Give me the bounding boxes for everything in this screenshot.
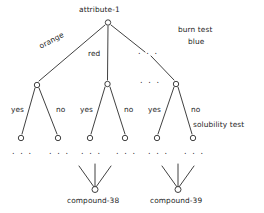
ellipsis-under-leaf-4: . . . <box>116 148 137 156</box>
edge-to-compound-38-left <box>79 166 94 187</box>
ellipsis-under-leaf-5: . . . <box>148 148 169 156</box>
node-leaf-2 <box>55 135 60 140</box>
edge-label-yes-1: yes <box>11 106 24 115</box>
node-leaf-6 <box>190 135 195 140</box>
root-node-label: attribute-1 <box>79 6 120 15</box>
node-leaf-5 <box>154 135 159 140</box>
node-compound-39 <box>175 187 181 193</box>
node-compound-38 <box>92 187 98 193</box>
edge-to-compound-38-right <box>96 166 111 187</box>
node-leaf-3 <box>87 135 92 140</box>
decision-tree-diagram: attribute-1 orange red burn test blue . … <box>0 0 264 213</box>
compound-38-label: compound-38 <box>67 197 119 206</box>
node-root <box>105 20 110 25</box>
attribute-label-burn-test: burn test <box>178 26 212 35</box>
edge-to-compound-39-right <box>179 166 194 187</box>
node-leaf-4 <box>122 135 127 140</box>
ellipsis-under-leaf-3: . . . <box>81 148 102 156</box>
edge-label-red: red <box>88 50 100 59</box>
edge-label-no-2: no <box>124 106 133 115</box>
edge-label-no-1: no <box>56 106 65 115</box>
ellipsis-root-branch: . . . <box>138 48 159 56</box>
node-leaf-1 <box>18 135 23 140</box>
node-level2-red <box>105 81 110 86</box>
ellipsis-under-leaf-6: . . . <box>184 148 205 156</box>
ellipsis-under-leaf-2: . . . <box>49 148 70 156</box>
edge-l2b-yes <box>91 87 105 134</box>
edge-root-to-red <box>108 26 109 80</box>
edge-label-yes-2: yes <box>80 106 93 115</box>
attribute-label-solubility-test: solubility test <box>193 121 244 130</box>
edge-label-blue: blue <box>188 38 204 47</box>
edge-to-compound-39-left <box>162 166 177 187</box>
edge-label-no-3: no <box>191 106 200 115</box>
edge-l2a-no <box>39 88 57 134</box>
ellipsis-mid-level: . . . <box>140 77 161 85</box>
edge-l2b-no <box>110 87 125 134</box>
compound-39-label: compound-39 <box>150 197 202 206</box>
node-level2-orange <box>34 82 39 87</box>
node-level2-blue <box>173 81 178 86</box>
edge-l2c-no <box>178 87 192 134</box>
ellipsis-under-leaf-1: . . . <box>12 148 33 156</box>
edge-label-yes-3: yes <box>148 106 161 115</box>
